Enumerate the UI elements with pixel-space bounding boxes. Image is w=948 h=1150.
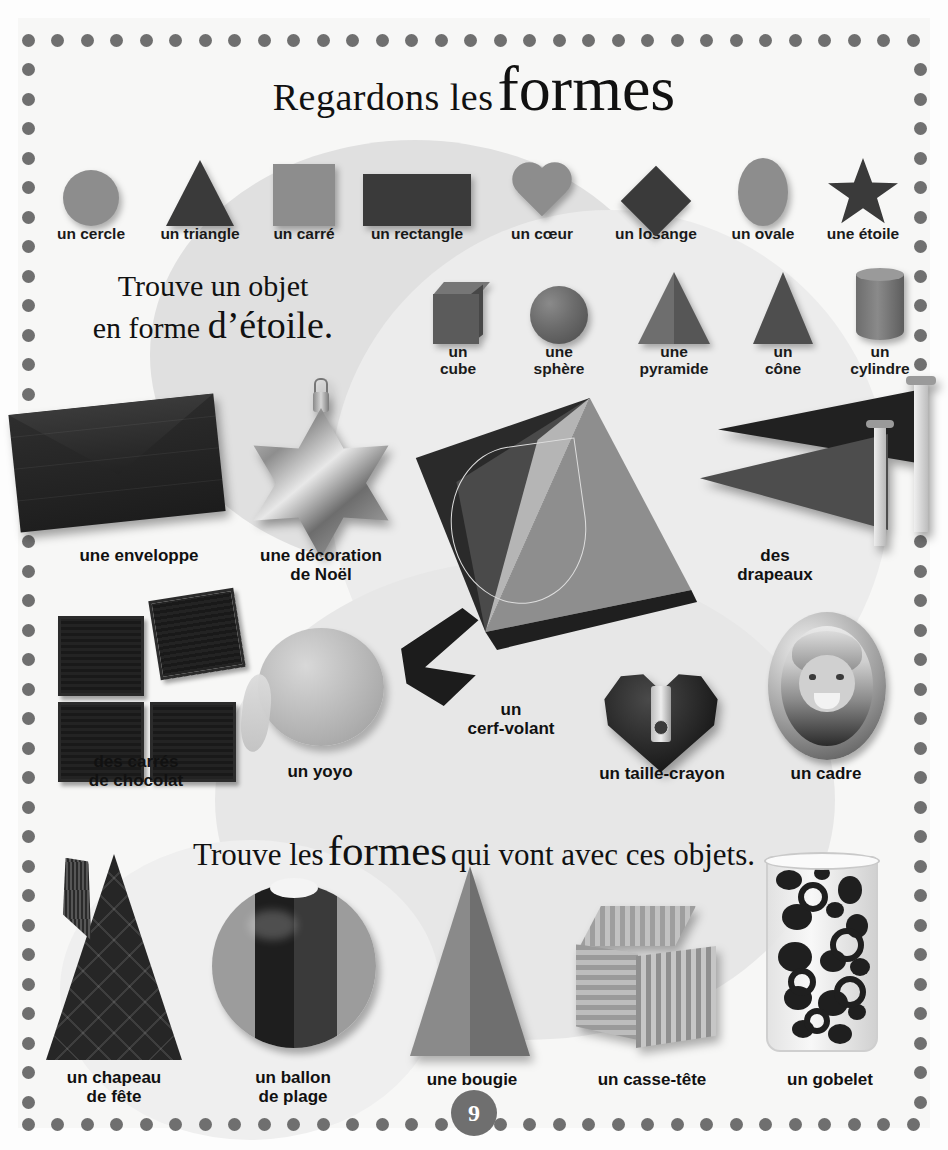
envelope-image xyxy=(8,394,225,533)
prompt-line-2-emphasis: d’étoile. xyxy=(208,304,334,346)
shape-label-line1: un xyxy=(871,343,890,360)
glass-dot xyxy=(826,902,844,918)
shape-label-line1: un xyxy=(449,343,468,360)
chocolate-image xyxy=(58,594,258,734)
christmas-star-photo[interactable] xyxy=(246,408,396,558)
shape-item-circle[interactable]: un cercle xyxy=(36,148,146,242)
yoyo-caption: un yoyo xyxy=(250,762,390,781)
glass-dot xyxy=(838,876,862,904)
shape-item-oval[interactable]: un ovale xyxy=(714,148,812,242)
glass-ring xyxy=(834,976,866,1008)
shape-label: un ovale xyxy=(714,226,812,242)
shape-label: un triangle xyxy=(144,226,256,242)
shape-label-line1: une xyxy=(660,343,688,360)
sharpener-caption: un taille-crayon xyxy=(566,764,758,783)
shape-item-heart[interactable]: un cœur xyxy=(488,148,596,242)
tumbler-caption: un gobelet xyxy=(750,1070,910,1089)
flags-caption: des drapeaux xyxy=(690,546,860,584)
page-title: Regardons les formes xyxy=(0,52,948,126)
shapes-3d-row: un cube une sphère une pyramide un cône xyxy=(410,262,920,388)
glass-dot xyxy=(778,942,812,972)
shape-item-star[interactable]: une étoile xyxy=(810,148,916,242)
shape-item-rectangle[interactable]: un rectangle xyxy=(352,148,482,242)
shape-item-diamond[interactable]: un losange xyxy=(598,148,714,242)
page-title-part1: Regardons les xyxy=(273,76,494,118)
caption-line-2: de Noël xyxy=(290,565,351,584)
party-hat-caption: un chapeau de fête xyxy=(24,1068,204,1106)
kite-caption: un cerf-volant xyxy=(416,700,606,738)
prompt-line-2-plain: en forme xyxy=(93,311,200,344)
beach-ball-photo[interactable] xyxy=(212,884,376,1048)
caption-line-1: des xyxy=(760,546,789,565)
caption-line-1: une décoration xyxy=(260,546,382,565)
shape-label: une étoile xyxy=(810,226,916,242)
chocolate-squares-photo[interactable] xyxy=(58,594,258,734)
shape-item-triangle[interactable]: un triangle xyxy=(144,148,256,242)
pencil-sharpener-photo[interactable] xyxy=(602,668,720,772)
chocolate-caption: des carrés de chocolat xyxy=(36,752,236,790)
kite-photo[interactable] xyxy=(410,392,700,692)
christmas-star-caption: une décoration de Noël xyxy=(232,546,410,584)
caption-line-1: un ballon xyxy=(255,1068,331,1087)
shape-label-line1: un xyxy=(774,343,793,360)
caption-line-2: de fête xyxy=(87,1087,142,1106)
caption-line-2: cerf-volant xyxy=(468,719,555,738)
shape-label-line2: cône xyxy=(765,360,801,377)
yoyo-photo[interactable] xyxy=(258,628,384,746)
shape-label-line1: une xyxy=(545,343,573,360)
beach-ball-image xyxy=(212,884,376,1048)
candle-image xyxy=(410,866,530,1056)
tumbler-glass-photo[interactable] xyxy=(766,856,878,1052)
book-page: Regardons les formes un cercle un triang… xyxy=(0,0,948,1150)
shape-label-line2: sphère xyxy=(534,360,585,377)
prompt2-before: Trouve les xyxy=(193,837,324,872)
picture-frame-photo[interactable] xyxy=(768,612,886,760)
caption-line-1: un xyxy=(501,700,522,719)
puzzle-cube-photo[interactable] xyxy=(570,906,720,1056)
caption-line-2: de chocolat xyxy=(89,771,183,790)
shape-item-cylinder[interactable]: un cylindre xyxy=(828,262,932,377)
heart-shape-icon xyxy=(508,164,576,226)
puzzle-cube-image xyxy=(570,906,720,1056)
page-title-part2: formes xyxy=(498,53,676,124)
pyramid-shape-icon xyxy=(638,272,710,344)
shape-label: un rectangle xyxy=(352,226,482,242)
oval-shape-icon xyxy=(738,158,788,226)
party-hat-photo[interactable] xyxy=(46,846,182,1060)
shape-label-line2: cube xyxy=(440,360,476,377)
glass-ring xyxy=(788,968,816,996)
flags-image xyxy=(700,382,930,552)
star-shape-icon xyxy=(828,158,898,226)
glass-dot xyxy=(776,870,802,890)
shapes-2d-row: un cercle un triangle un carré un rectan… xyxy=(36,148,916,256)
envelope-photo[interactable] xyxy=(14,404,220,522)
candle-caption: une bougie xyxy=(398,1070,546,1089)
shape-label-line2: pyramide xyxy=(640,360,709,377)
party-hat-image xyxy=(46,846,182,1060)
prompt-find-star: Trouve un objet en forme d’étoile. xyxy=(48,268,378,348)
cylinder-shape-icon xyxy=(856,268,904,344)
beach-ball-caption: un ballon de plage xyxy=(200,1068,386,1106)
caption-line-1: des carrés xyxy=(93,752,178,771)
shape-item-cube[interactable]: un cube xyxy=(410,262,506,377)
flags-photo[interactable] xyxy=(700,382,930,552)
caption-line-2: de plage xyxy=(259,1087,328,1106)
triangle-shape-icon xyxy=(166,160,234,226)
shape-item-sphere[interactable]: une sphère xyxy=(506,262,612,377)
shape-item-pyramid[interactable]: une pyramide xyxy=(612,262,736,377)
shape-label: un carré xyxy=(252,226,356,242)
caption-line-2: drapeaux xyxy=(737,565,813,584)
shape-item-square[interactable]: un carré xyxy=(252,148,356,242)
circle-shape-icon xyxy=(63,170,119,226)
candle-photo[interactable] xyxy=(410,866,530,1056)
cube-shape-icon xyxy=(433,282,483,344)
shape-label: un cœur xyxy=(488,226,596,242)
glass-ring xyxy=(804,1008,830,1034)
page-number: 9 xyxy=(451,1090,497,1136)
prompt-line-1: Trouve un objet xyxy=(48,268,378,303)
christmas-star-image xyxy=(246,408,396,558)
square-shape-icon xyxy=(273,164,335,226)
yoyo-image xyxy=(258,628,384,746)
glass-dot xyxy=(828,1024,852,1044)
shape-item-cone[interactable]: un cône xyxy=(736,262,830,377)
